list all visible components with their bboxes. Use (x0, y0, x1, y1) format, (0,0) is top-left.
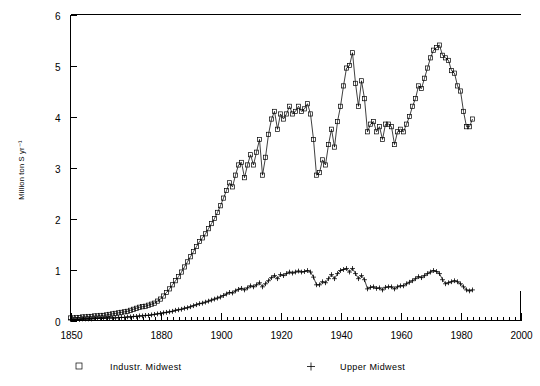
x-tick-label: 1900 (210, 330, 233, 341)
data-point-marker (158, 311, 163, 316)
data-point-marker (194, 302, 199, 307)
data-point-marker (212, 297, 217, 302)
data-point-marker (293, 270, 298, 275)
data-point-marker (188, 304, 193, 309)
data-point-marker (167, 309, 172, 314)
x-axis-minor-ticks (78, 317, 516, 321)
data-point-marker (134, 314, 139, 319)
data-point-marker (128, 315, 133, 320)
x-tick-label: 1920 (270, 330, 293, 341)
y-axis-title-text: Million ton S yr⁻¹ (17, 140, 26, 200)
data-point-marker (446, 280, 451, 285)
data-point-marker (449, 279, 454, 284)
data-point-marker (197, 301, 202, 306)
y-axis-tick-labels: 0123456 (55, 11, 61, 328)
data-point-marker (170, 309, 175, 314)
data-point-marker (302, 269, 307, 274)
data-point-marker (179, 307, 184, 312)
y-tick-label: 4 (55, 113, 61, 124)
data-point-marker (470, 117, 474, 121)
y-tick-label: 2 (55, 215, 61, 226)
x-tick-label: 1880 (150, 330, 173, 341)
y-axis-title: Million ton S yr⁻¹ (17, 140, 26, 200)
data-point-marker (467, 289, 472, 294)
y-tick-label: 6 (55, 11, 61, 22)
data-point-marker (470, 288, 475, 293)
data-point-marker (155, 311, 160, 316)
data-point-marker (140, 314, 145, 319)
data-point-marker (299, 270, 304, 275)
data-point-marker (206, 299, 211, 304)
data-point-marker (353, 271, 358, 276)
data-point-marker (164, 310, 169, 315)
chart-legend: Industr. Midwest Upper Midwest (76, 362, 405, 372)
data-point-marker (341, 267, 346, 272)
data-point-marker (146, 313, 151, 318)
data-point-marker (200, 301, 205, 306)
data-point-marker (122, 315, 127, 320)
plot-frame (71, 15, 521, 321)
data-point-marker (152, 312, 157, 317)
data-point-marker (452, 278, 457, 283)
data-point-marker (176, 307, 181, 312)
y-axis-ticks (71, 16, 77, 322)
x-tick-label: 1960 (390, 330, 413, 341)
y-tick-label: 1 (55, 266, 61, 277)
chart-figure: Million ton S yr⁻¹ 0123456 1850188019001… (0, 0, 540, 386)
x-tick-label: 1940 (330, 330, 353, 341)
data-point-marker (209, 298, 214, 303)
x-tick-label: 2000 (510, 330, 533, 341)
data-point-marker (215, 296, 220, 301)
y-tick-label: 5 (55, 62, 61, 73)
x-tick-label: 1980 (450, 330, 473, 341)
x-axis-major-ticks (72, 313, 522, 321)
legend-item-industr-midwest-label: Industr. Midwest (110, 362, 182, 372)
legend-item-upper-midwest-label: Upper Midwest (340, 362, 405, 372)
legend-square-marker-icon (76, 363, 82, 369)
legend-item-upper-midwest: Upper Midwest (307, 362, 405, 372)
data-point-marker (191, 303, 196, 308)
data-point-marker (173, 308, 178, 313)
data-point-marker (290, 271, 295, 276)
emissions-time-series-chart: Million ton S yr⁻¹ 0123456 1850188019001… (0, 0, 540, 386)
legend-plus-marker-icon (307, 363, 315, 371)
data-point-marker (182, 306, 187, 311)
y-tick-label: 3 (55, 164, 61, 175)
data-point-marker (296, 269, 301, 274)
x-tick-label: 1850 (60, 330, 83, 341)
legend-item-industr-midwest: Industr. Midwest (76, 362, 182, 372)
y-tick-label: 0 (55, 317, 61, 328)
x-axis-tick-labels: 18501880190019201940196019802000 (60, 330, 533, 341)
data-point-marker (185, 305, 190, 310)
data-point-marker (203, 300, 208, 305)
data-point-marker (311, 275, 316, 280)
